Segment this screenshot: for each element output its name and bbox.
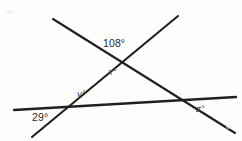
angle-label-z: z° bbox=[196, 104, 205, 114]
line-transversal-descending bbox=[53, 19, 235, 133]
paper-artifact bbox=[6, 10, 15, 14]
angle-label-y: y° bbox=[77, 89, 86, 99]
angle-label-x: x° bbox=[108, 67, 117, 77]
geometry-figure: 108° x° y° 29° z° bbox=[0, 0, 242, 141]
angle-label-108: 108° bbox=[103, 38, 125, 49]
line-transversal-ascending bbox=[32, 16, 178, 137]
angle-label-29: 29° bbox=[32, 112, 48, 123]
paper-artifact bbox=[226, 124, 233, 129]
